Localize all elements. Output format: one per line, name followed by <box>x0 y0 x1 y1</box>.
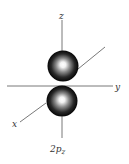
orbital-label-main: 2p <box>49 144 62 154</box>
x-axis-back <box>78 47 105 69</box>
y-axis-label: y <box>114 82 121 92</box>
x-axis-front <box>20 103 46 122</box>
orbital-diagram: z y x 2pz <box>0 0 129 164</box>
upper-lobe <box>48 51 79 82</box>
orbital-label: 2pz <box>49 144 66 156</box>
orbital-label-sub: z <box>61 148 66 156</box>
z-axis-label: z <box>58 11 64 21</box>
x-axis-label: x <box>12 119 17 129</box>
lower-lobe <box>47 86 78 117</box>
